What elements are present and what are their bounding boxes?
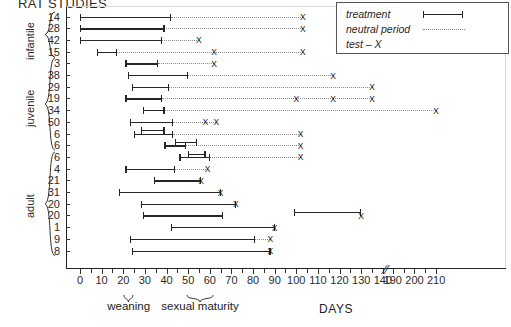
treatment-cap-end-2-0 (161, 37, 162, 44)
neutral-period-10-0 (173, 134, 301, 135)
test-x-mark-2-0: X (196, 35, 202, 45)
x-tick-label-120: 120 (330, 274, 348, 286)
test-x-mark-13-0: X (205, 164, 211, 174)
x-tick-label-200: 200 (405, 274, 423, 286)
treatment-bar-18-0 (171, 227, 275, 228)
treatment-bar-19-0 (130, 239, 255, 240)
treatment-bar-5-0 (128, 75, 189, 76)
treatment-cap-end-11-0 (185, 142, 186, 149)
treatment-cap-start-2-0 (80, 37, 81, 44)
group-label-infantile: infantile (24, 22, 36, 60)
x-minor-tick-5 (91, 269, 92, 273)
test-x-mark-10-0: X (298, 129, 304, 139)
test-x-mark-16-0: X (233, 199, 239, 209)
treatment-cap-end-7-0 (161, 95, 162, 102)
neutral-period-6-0 (169, 87, 372, 88)
treatment-cap-end-10-1 (163, 127, 164, 134)
x-tick-label-90: 90 (269, 274, 281, 286)
test-x-mark-6-0: X (369, 82, 375, 92)
treatment-cap-end-19-0 (254, 236, 255, 243)
treatment-cap-start-3-0 (97, 49, 98, 56)
group-brace-infantile (44, 11, 58, 62)
treatment-cap-start-1-0 (80, 25, 81, 32)
legend-swatch-neutral-line (423, 29, 465, 30)
row-tick-18 (66, 227, 70, 228)
test-x-mark-9-0: X (203, 117, 209, 127)
x-tick-label-30: 30 (139, 274, 151, 286)
test-x-mark-8-0: X (433, 106, 439, 116)
x-minor-tick-45 (177, 269, 178, 273)
row-tick-2 (66, 40, 70, 41)
test-x-mark-18-0: X (272, 223, 278, 233)
neutral-period-13-0 (175, 169, 207, 170)
group-label-juvenile: juvenile (24, 90, 36, 127)
test-x-mark-5-0: X (330, 71, 336, 81)
test-x-mark-0-0: X (300, 12, 306, 22)
test-x-mark-11-0: X (298, 141, 304, 151)
row-tick-6 (66, 87, 70, 88)
treatment-cap-start-12-0 (179, 154, 180, 161)
treatment-bar-4-0 (125, 63, 157, 64)
annotation-label-0: weaning (107, 300, 150, 312)
treatment-cap-end-13-0 (174, 166, 175, 173)
neutral-period-7-2 (333, 98, 372, 99)
treatment-cap-end-0-0 (170, 14, 171, 21)
test-x-mark-9-1: X (213, 117, 219, 127)
treatment-bar-16-0 (141, 204, 236, 205)
x-tick-label-10: 10 (96, 274, 108, 286)
x-minor-tick-85 (264, 269, 265, 273)
neutral-period-3-0 (117, 52, 214, 53)
treatment-bar-2-0 (80, 40, 162, 41)
treatment-cap-start-7-0 (125, 95, 126, 102)
treatment-bar-13-0 (125, 169, 175, 170)
x-minor-tick-115 (329, 269, 330, 273)
x-minor-tick-65 (221, 269, 222, 273)
neutral-period-5-0 (188, 75, 333, 76)
row-tick-19 (66, 239, 70, 240)
treatment-cap-start-11-1 (175, 139, 176, 146)
legend-item-test: test – X (346, 38, 382, 50)
test-x-mark-7-1: X (330, 94, 336, 104)
treatment-bar-14-0 (154, 180, 202, 181)
row-tick-7 (66, 98, 70, 99)
treatment-bar-3-0 (97, 52, 116, 53)
x-minor-tick-135 (372, 269, 373, 273)
treatment-bar-9-0 (130, 122, 173, 123)
neutral-period-7-0 (162, 98, 296, 99)
treatment-cap-start-17-1 (294, 209, 295, 216)
treatment-bar-0-0 (80, 17, 171, 18)
row-tick-5 (66, 75, 70, 76)
treatment-cap-end-3-0 (116, 49, 117, 56)
treatment-bar-17-0 (143, 215, 223, 216)
x-minor-tick-125 (350, 269, 351, 273)
x-minor-tick-105 (307, 269, 308, 273)
x-minor-tick-25 (134, 269, 135, 273)
test-x-mark-1-0: X (300, 24, 306, 34)
test-x-mark-15-0: X (218, 188, 224, 198)
treatment-cap-end-1-0 (163, 25, 164, 32)
legend-item-treatment: treatment (346, 8, 390, 20)
neutral-period-2-0 (162, 40, 199, 41)
treatment-cap-start-9-0 (130, 119, 131, 126)
treatment-bar-8-0 (143, 110, 165, 111)
x-tick-label-100: 100 (287, 274, 305, 286)
treatment-cap-start-18-0 (171, 224, 172, 231)
row-tick-3 (66, 52, 70, 53)
treatment-cap-start-5-0 (128, 72, 129, 79)
test-x-mark-4-0: X (211, 59, 217, 69)
x-tick-label-110: 110 (309, 274, 327, 286)
row-tick-17 (66, 215, 70, 216)
x-minor-tick-95 (285, 269, 286, 273)
row-tick-10 (66, 134, 70, 135)
treatment-cap-end-4-0 (157, 60, 158, 67)
neutral-period-7-1 (296, 98, 333, 99)
neutral-period-8-0 (164, 110, 436, 111)
neutral-period-11-0 (186, 145, 301, 146)
neutral-period-3-1 (214, 52, 303, 53)
legend-swatch-treatment-cap-left (423, 11, 424, 18)
treatment-cap-end-17-0 (222, 212, 223, 219)
row-tick-15 (66, 192, 70, 193)
treatment-cap-start-0-0 (80, 14, 81, 21)
neutral-period-12-0 (210, 157, 301, 158)
axis-break-icon: ⁄⁄ (384, 262, 388, 277)
